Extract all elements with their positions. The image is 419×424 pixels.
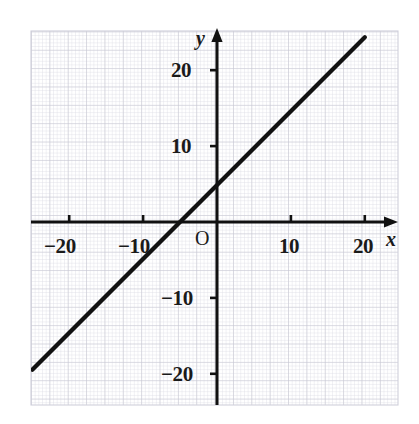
y-tick-label-neg20: −20: [161, 364, 193, 385]
coordinate-plane-svg: [0, 0, 419, 424]
origin-label: O: [195, 228, 209, 248]
grid-major: [31, 31, 398, 405]
graph-figure: −20 −10 10 20 20 10 −10 −20 y x O: [0, 0, 419, 424]
x-axis-label: x: [386, 229, 396, 249]
y-axis-label: y: [196, 28, 205, 48]
x-tick-label-pos20: 20: [353, 236, 373, 257]
y-tick-label-neg10: −10: [161, 288, 193, 309]
y-tick-label-pos20: 20: [171, 60, 191, 81]
x-tick-label-neg20: −20: [44, 236, 76, 257]
y-tick-label-pos10: 10: [171, 136, 191, 157]
x-tick-label-neg10: −10: [118, 236, 150, 257]
x-tick-label-pos10: 10: [279, 236, 299, 257]
